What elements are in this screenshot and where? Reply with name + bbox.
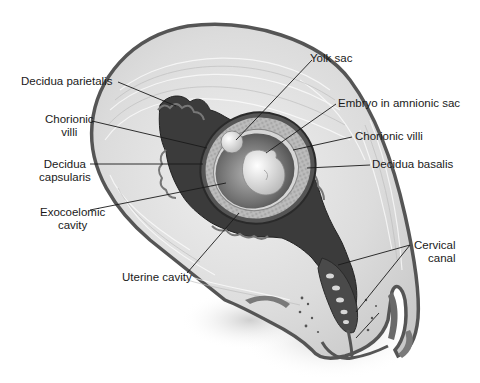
- label-decidua-parietalis: Decidua parietalis: [21, 75, 112, 88]
- label-yolk-sac: Yolk sac: [310, 52, 352, 65]
- label-decidua-basalis: Decidua basalis: [372, 158, 453, 171]
- uterus-illustration: [0, 0, 480, 383]
- label-decidua-capsularis: Decidua capsularis: [39, 158, 91, 184]
- label-uterine-cavity: Uterine cavity: [122, 271, 192, 284]
- label-line: capsularis: [39, 171, 91, 184]
- label-line: Chorionic: [45, 113, 94, 126]
- label-line: villi: [45, 126, 94, 139]
- label-embryo-in-amnionic-sac: Embryo in amnionic sac: [338, 97, 460, 110]
- label-cervical-canal: Cervical canal: [414, 239, 456, 265]
- label-line: Exocoelomic: [40, 206, 105, 219]
- label-chorionic-villi-left: Chorionic villi: [45, 113, 94, 139]
- label-line: cavity: [40, 219, 105, 232]
- label-line: canal: [414, 252, 456, 265]
- label-exocoelomic-cavity: Exocoelomic cavity: [40, 206, 105, 232]
- label-line: Cervical: [414, 239, 456, 252]
- label-line: Decidua: [39, 158, 91, 171]
- yolk-sac: [221, 131, 243, 153]
- label-chorionic-villi-right: Chorionic villi: [355, 130, 423, 143]
